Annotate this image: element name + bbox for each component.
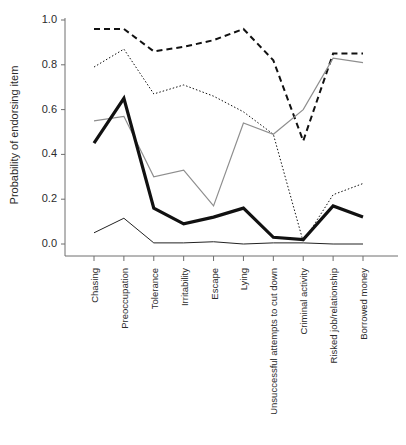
line-chart: 0.00.20.40.60.81.0 ChasingPreoccupationT…: [0, 0, 406, 445]
x-tick-label-unsuccessful-attempts-to-cut-down: Unsuccessful attempts to cut down: [268, 268, 279, 415]
y-tick-label: 0.2: [42, 192, 57, 204]
x-tick-label-criminal-activity: Criminal activity: [298, 268, 309, 335]
series-line-class-1-thick-dashed: [94, 29, 363, 141]
x-tick-labels: ChasingPreoccupationToleranceIrritabilit…: [89, 268, 369, 415]
y-tick-label: 0.0: [42, 237, 57, 249]
series-line-class-5-thin-black-solid: [94, 218, 363, 244]
y-axis-title: Probability of endorsing item: [8, 66, 20, 205]
x-tick-label-irritability: Irritability: [179, 268, 190, 306]
series-line-class-4-thick-black-solid: [94, 98, 363, 239]
y-tick-label: 0.8: [42, 58, 57, 70]
x-tick-label-escape: Escape: [209, 268, 220, 300]
series-container: [94, 29, 363, 244]
x-tick-label-preoccupation: Preoccupation: [119, 268, 130, 329]
chart-figure: 0.00.20.40.60.81.0 ChasingPreoccupationT…: [0, 0, 406, 445]
y-axis: 0.00.20.40.60.81.0: [42, 13, 65, 256]
y-tick-label: 1.0: [42, 13, 57, 25]
y-tick-label: 0.6: [42, 103, 57, 115]
x-tick-label-tolerance: Tolerance: [149, 268, 160, 309]
x-tick-label-chasing: Chasing: [89, 268, 100, 303]
x-axis: [65, 256, 398, 261]
x-tick-label-risked-job-relationship: Risked job/relationship: [328, 268, 339, 364]
x-tick-label-borrowed-money: Borrowed money: [358, 268, 369, 340]
x-tick-label-lying: Lying: [238, 268, 249, 290]
y-tick-label: 0.4: [42, 147, 57, 159]
